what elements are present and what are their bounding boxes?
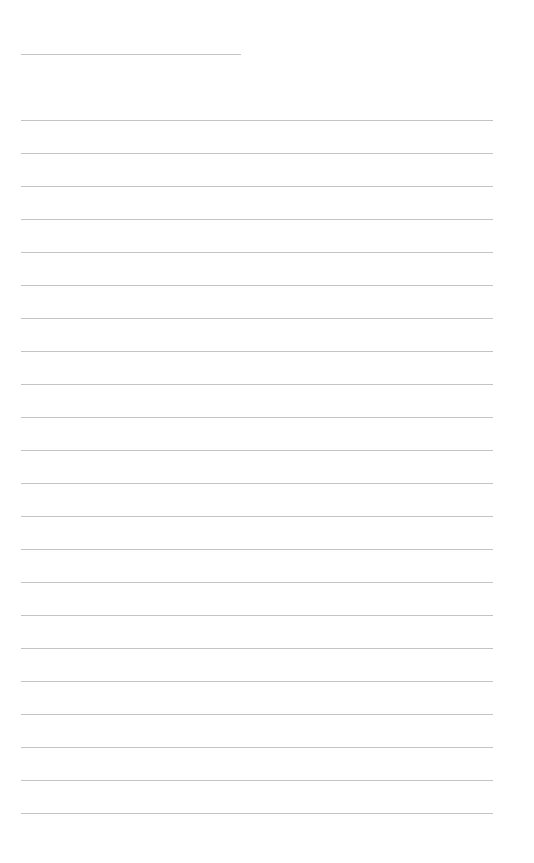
ruled-line: [21, 153, 493, 154]
ruled-line: [21, 219, 493, 220]
ruled-line: [21, 186, 493, 187]
ruled-line: [21, 681, 493, 682]
ruled-line: [21, 450, 493, 451]
ruled-line: [21, 516, 493, 517]
ruled-line: [21, 351, 493, 352]
ruled-line: [21, 648, 493, 649]
ruled-line: [21, 582, 493, 583]
ruled-line: [21, 549, 493, 550]
ruled-line: [21, 384, 493, 385]
ruled-line: [21, 714, 493, 715]
ruled-line: [21, 615, 493, 616]
ruled-line: [21, 747, 493, 748]
ruled-line: [21, 813, 493, 814]
ruled-line: [21, 483, 493, 484]
ruled-line: [21, 318, 493, 319]
ruled-line: [21, 780, 493, 781]
ruled-line: [21, 285, 493, 286]
ruled-line: [21, 417, 493, 418]
ruled-line: [21, 252, 493, 253]
header-line: [21, 54, 241, 55]
ruled-line: [21, 120, 493, 121]
